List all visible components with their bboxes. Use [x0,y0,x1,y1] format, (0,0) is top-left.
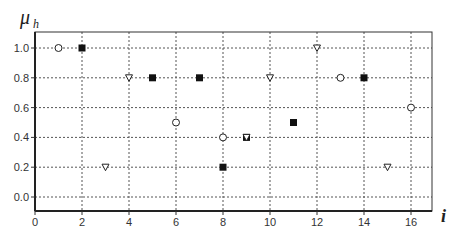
circle-marker [55,45,62,52]
x-axis-label: i [441,206,446,226]
plot-frame [35,32,432,211]
circle-marker [173,119,180,126]
y-tick-label: 0.0 [14,191,29,203]
y-axis-label: μ [19,6,30,29]
x-tick-label: 4 [126,216,132,228]
square-marker [149,74,156,81]
x-tick-label: 0 [32,216,38,228]
x-tick-label: 6 [173,216,179,228]
x-tick-label: 8 [220,216,226,228]
y-tick-label: 0.6 [14,102,29,114]
y-axis-label-subscript: h [33,17,39,31]
square-marker [220,164,227,171]
circle-marker [408,104,415,111]
circle-marker [220,134,227,141]
triangle-marker [384,164,391,171]
x-tick-labels: 0246810121416 [32,211,417,228]
grid-lines [35,32,432,211]
x-tick-label: 14 [358,216,370,228]
y-tick-labels: 0.00.20.40.60.81.0 [14,42,35,203]
square-marker [361,74,368,81]
scatter-chart: 0.00.20.40.60.81.0 0246810121416 μ h i [0,0,455,237]
square-marker [290,119,297,126]
square-marker [79,45,86,52]
y-tick-label: 0.8 [14,72,29,84]
x-tick-label: 16 [405,216,417,228]
y-tick-label: 0.2 [14,161,29,173]
x-tick-label: 10 [264,216,276,228]
y-tick-label: 1.0 [14,42,29,54]
x-tick-label: 2 [79,216,85,228]
x-tick-label: 12 [311,216,323,228]
y-tick-label: 0.4 [14,131,29,143]
circle-marker [337,74,344,81]
square-marker [196,74,203,81]
